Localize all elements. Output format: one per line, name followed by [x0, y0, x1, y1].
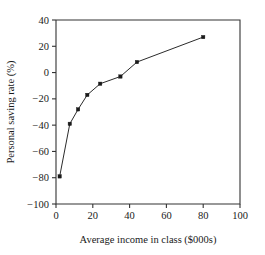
data-point-marker	[119, 75, 122, 78]
y-tick-label: 40	[39, 15, 50, 26]
x-tick-label: 20	[88, 210, 99, 221]
y-tick-label: 0	[44, 67, 49, 78]
y-tick-label: −60	[33, 146, 49, 157]
x-tick-label: 0	[53, 210, 58, 221]
data-point-marker	[98, 82, 101, 85]
y-axis-label: Personal saving rate (%)	[5, 60, 17, 163]
x-axis-label: Average income in class ($000s)	[80, 234, 217, 246]
y-tick-label: −100	[27, 199, 49, 210]
data-point-marker	[202, 35, 205, 38]
x-tick-label: 80	[198, 210, 209, 221]
line-chart: 40200−20−40−60−80−100 020406080100 Avera…	[0, 0, 265, 255]
chart-figure: 40200−20−40−60−80−100 020406080100 Avera…	[0, 0, 265, 255]
data-point-marker	[68, 122, 71, 125]
y-tick-label: −80	[33, 172, 49, 183]
x-tick-label: 100	[232, 210, 248, 221]
y-tick-label: 20	[39, 41, 50, 52]
data-point-marker	[86, 93, 89, 96]
data-point-marker	[76, 108, 79, 111]
x-tick-label: 60	[161, 210, 172, 221]
data-point-marker	[58, 175, 61, 178]
data-point-marker	[135, 60, 138, 63]
y-tick-label: −20	[33, 93, 49, 104]
y-tick-label: −40	[33, 120, 49, 131]
x-tick-label: 40	[124, 210, 135, 221]
